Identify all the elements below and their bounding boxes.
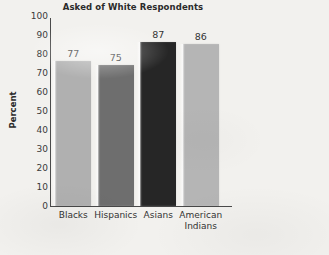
y-tick-label: 10 bbox=[37, 183, 48, 192]
y-axis-ticks: 1009080706050403020100 bbox=[22, 16, 48, 206]
y-tick-label: 30 bbox=[37, 145, 48, 154]
bar-slot: 77 bbox=[55, 18, 91, 206]
bar[interactable] bbox=[55, 61, 91, 206]
y-tick-label: 100 bbox=[31, 12, 48, 21]
bar[interactable] bbox=[183, 44, 219, 206]
y-tick-label: 20 bbox=[37, 164, 48, 173]
x-axis-category-label: AmericanIndians bbox=[173, 210, 230, 231]
bar-slot: 87 bbox=[140, 18, 176, 206]
bar[interactable] bbox=[98, 65, 134, 206]
y-tick-label: 50 bbox=[37, 107, 48, 116]
y-tick-label: 40 bbox=[37, 126, 48, 135]
y-axis-label: Percent bbox=[8, 88, 18, 132]
bar-slot: 86 bbox=[183, 18, 219, 206]
bar-value-label: 77 bbox=[67, 48, 79, 59]
bar-value-label: 87 bbox=[152, 29, 164, 40]
bar-slot: 75 bbox=[98, 18, 134, 206]
bar[interactable] bbox=[140, 42, 176, 206]
y-tick-label: 80 bbox=[37, 50, 48, 59]
y-tick-label: 90 bbox=[37, 31, 48, 40]
bar-chart-left: Asked of White Respondents Percent 10090… bbox=[0, 0, 232, 255]
bar-value-label: 86 bbox=[195, 31, 207, 42]
bar-value-label: 75 bbox=[110, 52, 122, 63]
y-tick-label: 70 bbox=[37, 69, 48, 78]
chart-title: Asked of White Respondents bbox=[38, 2, 228, 12]
bar-chart-right-partial: Percent 1009080706050403020100 W bbox=[253, 0, 329, 255]
y-tick-label: 60 bbox=[37, 88, 48, 97]
plot-area: 77758786 bbox=[52, 18, 222, 206]
